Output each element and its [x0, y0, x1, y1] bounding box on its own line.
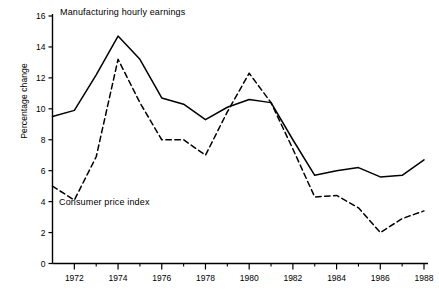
x-axis: 197219741976197819801982198419861988	[53, 264, 434, 283]
data-series-group	[53, 36, 425, 232]
svg-text:1982: 1982	[283, 273, 302, 283]
svg-text:1988: 1988	[415, 273, 434, 283]
svg-text:0: 0	[41, 259, 46, 269]
svg-text:14: 14	[36, 42, 46, 52]
series-line-consumer-price-index	[53, 59, 425, 232]
svg-text:2: 2	[41, 228, 46, 238]
svg-text:1978: 1978	[196, 273, 215, 283]
chart-plot-area: 0246810121416 19721974197619781980198219…	[0, 0, 439, 289]
svg-text:12: 12	[36, 73, 46, 83]
svg-text:1984: 1984	[327, 273, 346, 283]
svg-text:10: 10	[36, 104, 46, 114]
svg-text:4: 4	[41, 197, 46, 207]
svg-text:8: 8	[41, 135, 46, 145]
svg-text:6: 6	[41, 166, 46, 176]
svg-text:1980: 1980	[240, 273, 259, 283]
chart-container: Percentage change Manufacturing hourly e…	[0, 0, 439, 289]
y-axis: 0246810121416	[36, 11, 52, 269]
svg-text:1976: 1976	[152, 273, 171, 283]
svg-text:1972: 1972	[65, 273, 84, 283]
svg-text:16: 16	[36, 11, 46, 21]
svg-text:1974: 1974	[109, 273, 128, 283]
svg-text:1986: 1986	[371, 273, 390, 283]
